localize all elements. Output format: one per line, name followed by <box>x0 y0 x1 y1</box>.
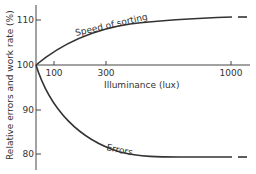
y-tick-label: 100 <box>17 60 34 70</box>
errors-curve <box>36 65 232 157</box>
errors-curve-label: Errors <box>106 142 134 157</box>
y-tick-label: 80 <box>23 149 35 159</box>
chart: 110 100 90 80 100 300 1000 Illuminance (… <box>0 0 256 174</box>
x-tick-label: 1000 <box>220 68 243 78</box>
speed-curve-label: Speed of sorting <box>74 12 148 38</box>
y-tick-label: 110 <box>17 15 34 25</box>
x-axis-label: Illuminance (lux) <box>104 80 179 90</box>
y-tick-label: 90 <box>23 105 35 115</box>
y-axis-label: Relative errors and work rate (%) <box>5 10 15 160</box>
x-tick-label: 300 <box>97 68 114 78</box>
x-tick-label: 100 <box>45 68 62 78</box>
